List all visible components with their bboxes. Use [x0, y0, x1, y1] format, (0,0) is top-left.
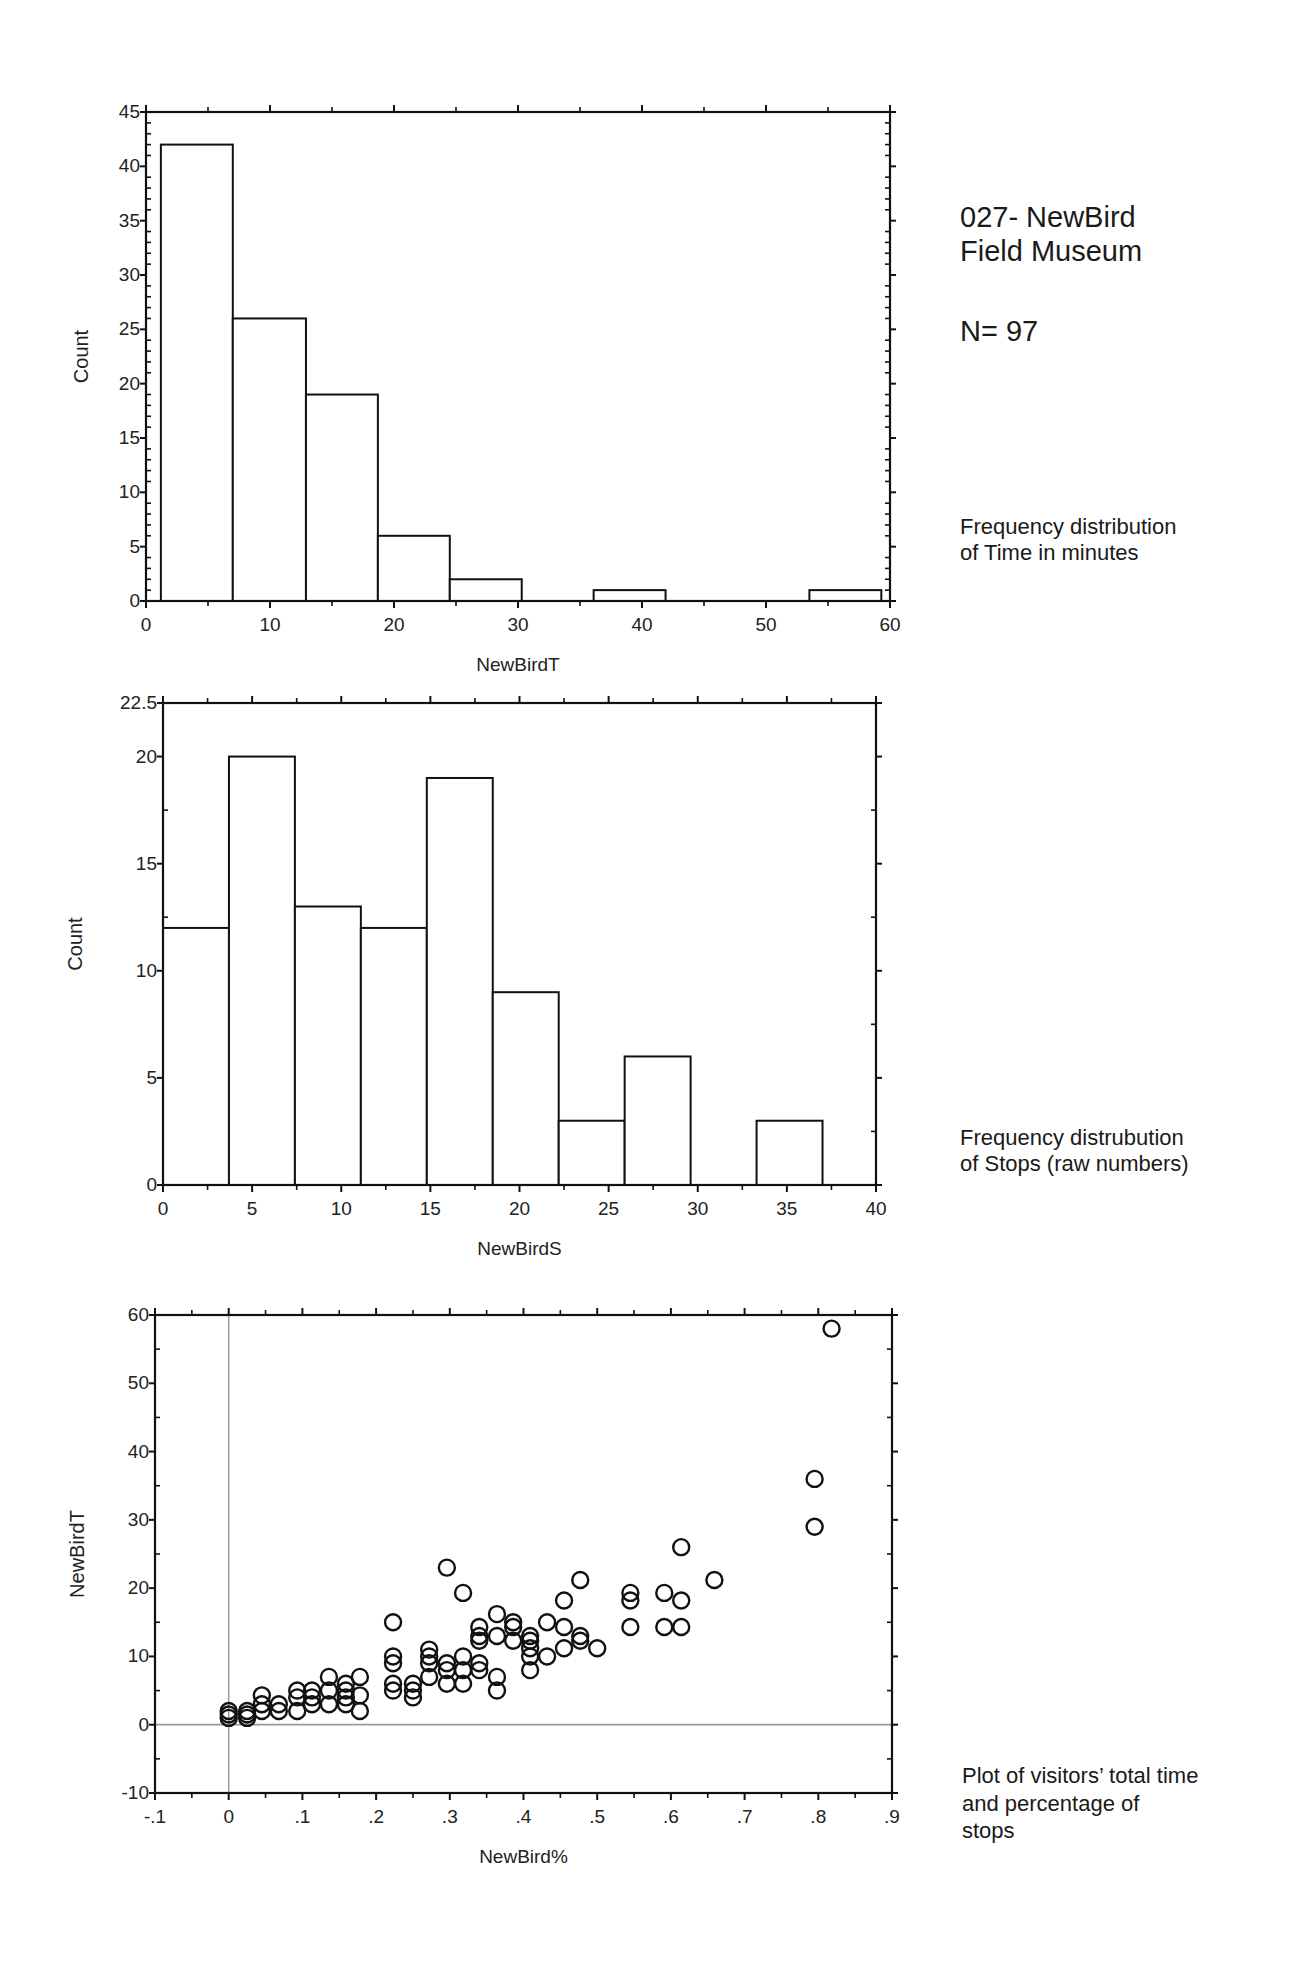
x-tick-label: .9 [884, 1806, 900, 1827]
histogram-bar [361, 928, 427, 1185]
y-tick-label: 10 [128, 1645, 149, 1666]
histogram-bar [295, 907, 361, 1185]
y-tick-label: 25 [119, 318, 140, 339]
x-tick-label: 0 [158, 1198, 169, 1219]
plot-frame [155, 1315, 892, 1793]
x-tick-label: .8 [810, 1806, 826, 1827]
data-point [439, 1560, 455, 1576]
y-tick-label: -10 [122, 1782, 149, 1803]
data-point [589, 1640, 605, 1656]
x-tick-label: .5 [589, 1806, 605, 1827]
histogram-bar [378, 536, 450, 601]
caption-time-distribution: Frequency distribution of Time in minute… [960, 514, 1176, 566]
data-point [706, 1572, 722, 1588]
y-tick-label: 0 [146, 1174, 157, 1195]
x-tick-label: 40 [631, 614, 652, 635]
data-point [622, 1619, 638, 1635]
y-tick-label: 35 [119, 210, 140, 231]
x-axis-label: NewBirdS [477, 1238, 561, 1259]
x-axis-label: NewBird% [479, 1846, 568, 1867]
x-tick-label: 25 [598, 1198, 619, 1219]
data-point [556, 1640, 572, 1656]
data-point [656, 1585, 672, 1601]
y-tick-label: 45 [119, 101, 140, 122]
y-tick-label: 5 [146, 1067, 157, 1088]
x-tick-label: 20 [383, 614, 404, 635]
y-tick-label: 20 [128, 1577, 149, 1598]
caption-scatter: Plot of visitors’ total time and percent… [962, 1762, 1198, 1845]
y-axis-label: Count [64, 917, 86, 971]
x-tick-label: 10 [331, 1198, 352, 1219]
caption-line: of Time in minutes [960, 540, 1176, 566]
histogram-bar [306, 395, 378, 601]
histogram-bar [427, 778, 493, 1185]
caption-line: Plot of visitors’ total time [962, 1762, 1198, 1790]
data-point [824, 1321, 840, 1337]
data-point [807, 1519, 823, 1535]
y-tick-label: 5 [129, 536, 140, 557]
caption-line: of Stops (raw numbers) [960, 1151, 1189, 1177]
x-tick-label: 0 [141, 614, 152, 635]
data-point [455, 1585, 471, 1601]
x-tick-label: .3 [442, 1806, 458, 1827]
data-point [489, 1606, 505, 1622]
histogram-bar [493, 992, 559, 1185]
x-tick-label: 50 [755, 614, 776, 635]
y-tick-label: 60 [128, 1304, 149, 1325]
x-tick-label: -.1 [144, 1806, 166, 1827]
sample-size: N= 97 [960, 314, 1038, 348]
report-title: 027- NewBird Field Museum [960, 200, 1142, 268]
histogram-bar [163, 928, 229, 1185]
x-tick-label: .6 [663, 1806, 679, 1827]
histogram-bar [229, 757, 295, 1185]
y-tick-label: 20 [136, 746, 157, 767]
x-tick-label: 20 [509, 1198, 530, 1219]
x-tick-label: 30 [687, 1198, 708, 1219]
caption-line: and percentage of [962, 1790, 1198, 1818]
y-tick-label: 22.5 [120, 692, 157, 713]
y-tick-label: 0 [138, 1714, 149, 1735]
data-point [673, 1539, 689, 1555]
y-tick-label: 50 [128, 1372, 149, 1393]
chart-canvas: 0102030405060051015202530354045NewBirdTC… [0, 0, 1304, 1962]
y-tick-label: 15 [136, 853, 157, 874]
y-tick-label: 20 [119, 373, 140, 394]
histogram-bar [450, 579, 522, 601]
y-tick-label: 30 [128, 1509, 149, 1530]
x-tick-label: 35 [776, 1198, 797, 1219]
x-tick-label: 5 [247, 1198, 258, 1219]
histogram-bar [161, 145, 233, 601]
caption-line: Frequency distrubution [960, 1125, 1189, 1151]
data-point [539, 1648, 555, 1664]
caption-stops-distribution: Frequency distrubution of Stops (raw num… [960, 1125, 1189, 1177]
x-tick-label: 10 [259, 614, 280, 635]
x-axis-label: NewBirdT [476, 654, 560, 675]
histogram-time: 0102030405060051015202530354045NewBirdTC… [70, 101, 901, 675]
histogram-bar [757, 1121, 823, 1185]
data-point [556, 1592, 572, 1608]
histogram-bar [625, 1056, 691, 1185]
x-tick-label: .4 [516, 1806, 532, 1827]
data-point [489, 1628, 505, 1644]
y-tick-label: 40 [119, 155, 140, 176]
title-line-2: Field Museum [960, 234, 1142, 268]
data-point [673, 1619, 689, 1635]
histogram-bar [559, 1121, 625, 1185]
data-point [673, 1592, 689, 1608]
y-tick-label: 0 [129, 590, 140, 611]
data-point [572, 1572, 588, 1588]
data-point [385, 1614, 401, 1630]
y-tick-label: 10 [136, 960, 157, 981]
data-point [352, 1703, 368, 1719]
data-point [539, 1614, 555, 1630]
y-axis-label: NewBirdT [66, 1510, 88, 1598]
histogram-bar [233, 318, 306, 601]
data-point [656, 1619, 672, 1635]
y-tick-label: 15 [119, 427, 140, 448]
histogram-stops: 05101520253035400510152022.5NewBirdSCoun… [64, 692, 887, 1259]
scatter-time-vs-percent: -.10.1.2.3.4.5.6.7.8.9-100102030405060Ne… [66, 1304, 900, 1867]
y-tick-label: 30 [119, 264, 140, 285]
histogram-bar [809, 590, 881, 601]
histogram-bar [594, 590, 666, 601]
data-point [352, 1669, 368, 1685]
